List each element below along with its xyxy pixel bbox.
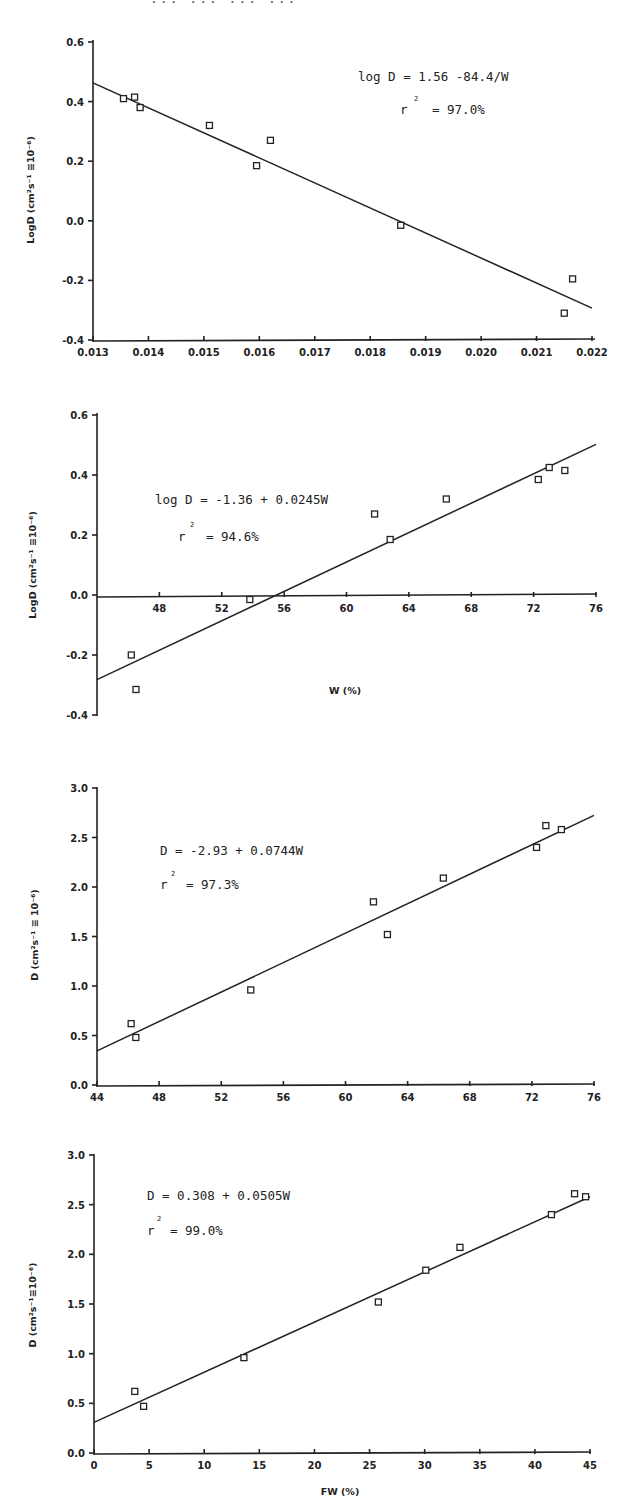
equation-label: D = 0.308 + 0.0505W [147,1188,290,1203]
data-point-marker [132,1388,138,1394]
svg-text:2.0: 2.0 [67,1249,85,1260]
r2-symbol: r [147,1223,155,1238]
r2-superscript: 2 [157,1215,161,1223]
x-axis-label: FW (%) [321,1486,359,1497]
data-point-marker [241,1355,247,1361]
svg-text:0.0: 0.0 [67,1448,85,1459]
svg-text:0.5: 0.5 [67,1398,85,1409]
svg-text:0: 0 [91,1460,98,1471]
data-point-marker [457,1244,463,1250]
svg-text:1.5: 1.5 [67,1299,85,1310]
data-point-marker [141,1403,147,1409]
svg-text:15: 15 [252,1460,266,1471]
svg-text:35: 35 [473,1460,487,1471]
svg-text:10: 10 [197,1460,211,1471]
svg-text:2.5: 2.5 [67,1200,85,1211]
regression-line [94,1197,590,1423]
svg-text:25: 25 [363,1460,377,1471]
data-point-marker [583,1194,589,1200]
svg-text:20: 20 [307,1460,321,1471]
data-point-marker [375,1299,381,1305]
chart-d-vs-fw: 3.02.52.01.51.00.50.0 051015202530354045… [0,0,635,1505]
r2-value: = 99.0% [170,1223,223,1238]
x-axis [94,1452,591,1454]
svg-text:40: 40 [528,1460,542,1471]
svg-text:45: 45 [583,1460,597,1471]
svg-text:1.0: 1.0 [67,1349,85,1360]
data-point-marker [423,1267,429,1273]
data-point-marker [548,1212,554,1218]
svg-text:3.0: 3.0 [67,1150,85,1161]
y-axis-label: D (cm²s⁻¹≡10⁻⁶) [27,1263,38,1348]
y-ticks: 3.02.52.01.51.00.50.0 [67,1150,94,1459]
data-point-marker [572,1191,578,1197]
svg-text:30: 30 [418,1460,432,1471]
svg-text:5: 5 [146,1460,153,1471]
